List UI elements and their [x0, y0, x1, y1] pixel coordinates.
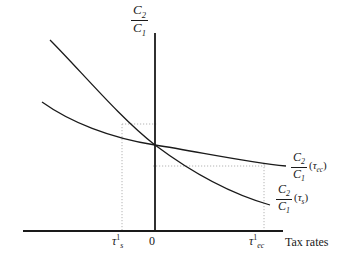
y-axis-numerator: C2	[131, 3, 148, 21]
x-tick-label-tau-s: τ1s	[112, 234, 123, 250]
curve-tau-ec	[42, 102, 286, 166]
guide-lines	[122, 124, 266, 231]
x-tick-label-origin: 0	[149, 235, 155, 247]
curve-tau-ec-denominator: C1	[291, 168, 307, 184]
curve-tau-s-denominator: C1	[276, 200, 292, 216]
y-axis-fraction: C2 C1	[131, 3, 148, 37]
curve-tau-s	[50, 40, 270, 205]
figure-canvas: C2 C1 C2 C1 (τec) C2 C1 (τs) τ1s 0 τ1ec …	[0, 0, 347, 263]
curve-tau-s-numerator: C2	[276, 183, 292, 200]
x-tick-label-tau-ec: τ1ec	[249, 234, 264, 250]
curve-tau-ec-label: C2 C1 (τec)	[291, 151, 327, 183]
curve-tau-s-argument: (τs)	[292, 192, 308, 206]
y-axis-title: C2 C1	[131, 3, 148, 37]
curve-tau-ec-fraction: C2 C1	[291, 151, 307, 183]
curve-tau-ec-argument: (τec)	[307, 160, 327, 174]
y-axis-denominator: C1	[131, 21, 148, 38]
curve-tau-s-label: C2 C1 (τs)	[276, 183, 308, 215]
plot-area	[0, 0, 347, 263]
curve-tau-ec-numerator: C2	[291, 151, 307, 168]
curve-tau-s-fraction: C2 C1	[276, 183, 292, 215]
x-axis-title: Tax rates	[285, 236, 328, 248]
